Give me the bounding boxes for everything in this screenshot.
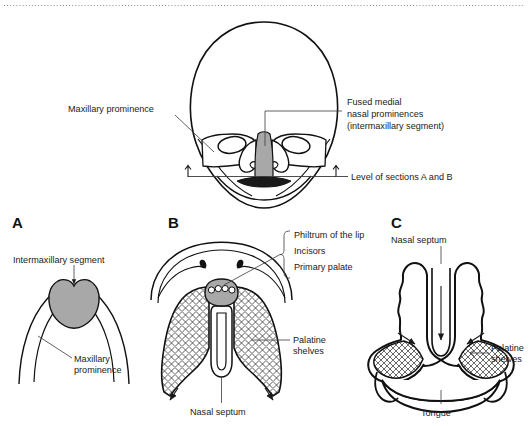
panel-a-letter: A (12, 214, 23, 231)
label-fused-medial-2: nasal prominences (347, 109, 424, 119)
incisor-1 (208, 287, 214, 293)
label-panel-b-nasal-septum: Nasal septum (190, 407, 246, 417)
label-panel-c-palatine-2: shelves (491, 354, 522, 364)
incisor-3 (222, 286, 228, 292)
label-maxillary-prominence-top: Maxillary prominence (68, 104, 154, 114)
incisor-2 (215, 286, 221, 292)
label-panel-a-maxillary-1: Maxillary (74, 354, 110, 364)
label-panel-c-nasal-septum: Nasal septum (391, 235, 447, 245)
panel-c-letter: C (391, 214, 402, 231)
label-fused-medial-1: Fused medial (347, 97, 402, 107)
incisor-4 (229, 287, 235, 293)
label-intermaxillary-segment: Intermaxillary segment (13, 255, 105, 265)
label-panel-c-palatine-1: Palatine (491, 343, 524, 353)
label-fused-medial-3: (intermaxillary segment) (347, 121, 444, 131)
label-philtrum: Philtrum of the lip (294, 230, 364, 240)
label-section-level: Level of sections A and B (351, 172, 453, 182)
panel-b-letter: B (168, 214, 179, 231)
label-panel-a-maxillary-2: prominence (74, 365, 122, 375)
anatomy-figure: Maxillary prominence Fused medial nasal … (0, 0, 529, 426)
label-panel-b-palatine-2: shelves (293, 346, 324, 356)
label-incisors: Incisors (294, 246, 326, 256)
panel-b-nasal-septum-inner (217, 313, 226, 370)
intermaxillary-segment-shaded (255, 132, 273, 181)
label-primary-palate: Primary palate (294, 262, 353, 272)
label-panel-b-palatine-1: Palatine (293, 335, 326, 345)
label-panel-c-tongue: Tongue (421, 408, 451, 418)
